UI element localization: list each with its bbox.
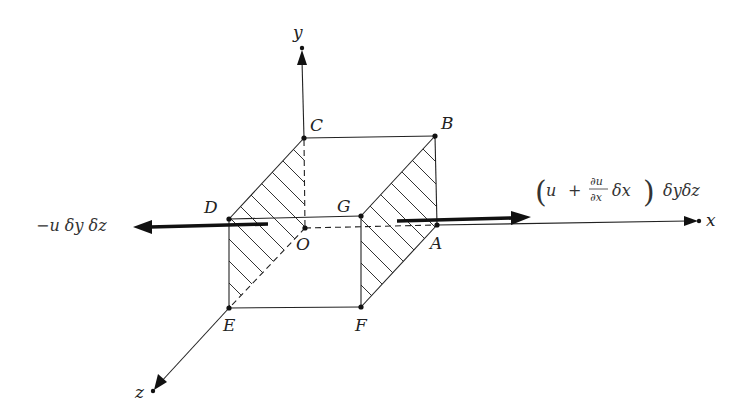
edge-cd	[229, 138, 304, 219]
vertex-dot-a	[434, 222, 439, 227]
edge-ef	[229, 307, 361, 308]
vertex-label-a: A	[428, 233, 442, 253]
y-axis-arrowhead	[297, 50, 307, 65]
edge-af	[361, 225, 437, 307]
edge-oa-hidden	[305, 225, 437, 228]
vertex-dot-g	[358, 213, 363, 218]
edge-co-hidden	[304, 140, 305, 228]
vertex-label-c: C	[310, 115, 323, 135]
vertex-label-d: D	[203, 197, 218, 217]
x-axis	[437, 221, 688, 225]
vertex-label-e: E	[222, 315, 236, 335]
flux-arrow-right-head	[511, 211, 531, 225]
vertex-dot-o	[302, 225, 307, 230]
frac-numerator: ∂u	[590, 175, 603, 188]
edge-oe-hidden	[232, 228, 305, 305]
edge-ba	[435, 136, 437, 225]
flux-label-left: −u δy δz	[36, 216, 107, 235]
z-axis	[160, 308, 229, 383]
flux-u: u	[546, 181, 556, 200]
vertex-label-o: O	[296, 234, 310, 254]
flux-tail: δyδz	[663, 181, 700, 200]
z-axis-arrowhead	[154, 374, 167, 390]
edge-cb	[304, 136, 435, 138]
paren-open: (	[535, 174, 547, 209]
vertex-label-b: B	[440, 113, 454, 133]
hatched-face-left	[120, 64, 360, 326]
edge-bg	[361, 136, 435, 216]
flux-label-right: ( u + ∂u ∂x δx ) δyδz	[535, 174, 700, 209]
flux-dx: δx	[612, 181, 631, 200]
x-axis-label: x	[706, 210, 716, 230]
y-axis-label: y	[292, 22, 303, 42]
frac-denominator: ∂x	[590, 191, 603, 204]
flux-arrow-right	[397, 218, 512, 221]
flux-arrow-left-head	[133, 220, 152, 234]
vertex-dot-c	[301, 135, 306, 140]
z-axis-label: z	[134, 382, 145, 402]
flux-plus: +	[568, 181, 581, 200]
y-axis	[302, 60, 304, 138]
paren-close: )	[643, 174, 655, 209]
hatched-face-right	[260, 64, 490, 314]
vertex-dot-f	[358, 304, 363, 309]
vertex-dot-b	[432, 133, 437, 138]
x-axis-arrowhead	[684, 216, 698, 226]
vertex-dot-e	[226, 305, 231, 310]
flux-arrow-left	[150, 224, 268, 227]
vertex-label-f: F	[354, 315, 368, 335]
control-volume-diagram: y x z C B D G O A E F −u δy δz ( u + ∂u …	[0, 0, 751, 420]
vertex-label-g: G	[337, 196, 351, 216]
vertex-dot-d	[226, 216, 231, 221]
